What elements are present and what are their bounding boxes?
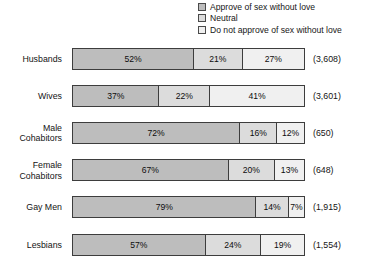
category-label-line1: Wives xyxy=(38,91,62,101)
segment-approve: 79% xyxy=(73,197,255,217)
segment-neutral: 16% xyxy=(239,123,276,143)
category-label-line1: Male xyxy=(43,123,62,133)
legend-item-neutral: Neutral xyxy=(198,13,366,25)
sample-count-gay-men: (1,915) xyxy=(313,202,363,212)
segment-approve: 67% xyxy=(73,160,228,180)
category-label-line2: Cohabitors xyxy=(0,170,62,180)
segment-approve: 37% xyxy=(73,86,158,106)
segment-approve: 57% xyxy=(73,235,205,255)
stacked-bar-chart: Approve of sex without love Neutral Do n… xyxy=(0,0,366,263)
sample-count-lesbians: (1,554) xyxy=(313,240,363,250)
bar-gay-men: 79% 14% 7% xyxy=(72,196,305,218)
legend-label-neutral: Neutral xyxy=(210,13,238,23)
chart-row-female-cohabitors: Female Cohabitors 67% 20% 13% (648) xyxy=(0,152,366,189)
category-label-line1: Lesbians xyxy=(27,239,62,249)
segment-approve: 52% xyxy=(73,49,193,69)
sample-count-husbands: (3,608) xyxy=(313,54,363,64)
category-label-male-cohabitors: Male Cohabitors xyxy=(0,123,62,144)
segment-approve: 72% xyxy=(73,123,239,143)
bar-husbands: 52% 21% 27% xyxy=(72,48,305,70)
disapprove-swatch-icon xyxy=(198,26,206,34)
chart-legend: Approve of sex without love Neutral Do n… xyxy=(198,1,366,36)
segment-neutral: 24% xyxy=(205,235,260,255)
category-label-husbands: Husbands xyxy=(0,53,62,63)
segment-neutral: 14% xyxy=(255,197,287,217)
category-label-wives: Wives xyxy=(0,91,62,101)
chart-row-wives: Wives 37% 22% 41% (3,601) xyxy=(0,77,366,114)
bar-female-cohabitors: 67% 20% 13% xyxy=(72,159,305,181)
segment-disapprove: 12% xyxy=(276,123,304,143)
bar-male-cohabitors: 72% 16% 12% xyxy=(72,122,305,144)
legend-label-disapprove: Do not approve of sex without love xyxy=(210,25,342,35)
segment-disapprove: 27% xyxy=(242,49,304,69)
bar-lesbians: 57% 24% 19% xyxy=(72,234,305,256)
sample-count-wives: (3,601) xyxy=(313,91,363,101)
chart-row-male-cohabitors: Male Cohabitors 72% 16% 12% (650) xyxy=(0,114,366,151)
bar-wives: 37% 22% 41% xyxy=(72,85,305,107)
chart-row-lesbians: Lesbians 57% 24% 19% (1,554) xyxy=(0,226,366,263)
segment-disapprove: 19% xyxy=(260,235,304,255)
segment-neutral: 20% xyxy=(228,160,274,180)
category-label-lesbians: Lesbians xyxy=(0,239,62,249)
segment-disapprove: 13% xyxy=(274,160,304,180)
category-label-line1: Female xyxy=(33,160,62,170)
segment-disapprove: 41% xyxy=(209,86,304,106)
segment-neutral: 21% xyxy=(193,49,242,69)
neutral-swatch-icon xyxy=(198,14,206,22)
chart-row-gay-men: Gay Men 79% 14% 7% (1,915) xyxy=(0,189,366,226)
category-label-line1: Gay Men xyxy=(26,202,62,212)
approve-swatch-icon xyxy=(198,3,206,11)
legend-item-disapprove: Do not approve of sex without love xyxy=(198,24,366,36)
chart-rows: Husbands 52% 21% 27% (3,608) Wives 37% 2… xyxy=(0,40,366,263)
segment-neutral: 22% xyxy=(158,86,209,106)
chart-row-husbands: Husbands 52% 21% 27% (3,608) xyxy=(0,40,366,77)
legend-item-approve: Approve of sex without love xyxy=(198,1,366,13)
category-label-female-cohabitors: Female Cohabitors xyxy=(0,160,62,181)
category-label-line1: Husbands xyxy=(22,53,62,63)
category-label-line2: Cohabitors xyxy=(0,133,62,143)
segment-disapprove: 7% xyxy=(288,197,304,217)
sample-count-male-cohabitors: (650) xyxy=(313,128,363,138)
legend-label-approve: Approve of sex without love xyxy=(210,2,315,12)
sample-count-female-cohabitors: (648) xyxy=(313,165,363,175)
category-label-gay-men: Gay Men xyxy=(0,202,62,212)
